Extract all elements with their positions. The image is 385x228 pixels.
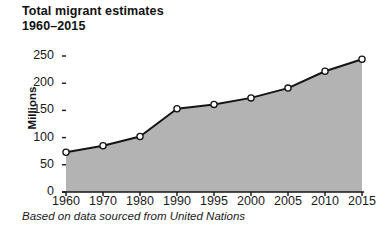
chart-title-line-1: Total migrant estimates: [22, 4, 164, 19]
x-tick-label-1980: 1980: [126, 194, 154, 208]
data-point-1990: [174, 106, 180, 112]
data-point-1995: [211, 101, 217, 107]
x-tick-label-2005: 2005: [274, 194, 302, 208]
x-tick-label-1990: 1990: [163, 194, 191, 208]
area-chart-svg: [0, 44, 385, 196]
x-tick-label-2015: 2015: [348, 194, 376, 208]
chart-title-line-2: 1960–2015: [22, 19, 164, 34]
y-axis-tick-marks: [62, 56, 66, 192]
data-point-2000: [248, 95, 254, 101]
data-point-2005: [285, 85, 291, 91]
data-point-2015: [359, 56, 365, 62]
x-tick-label-2010: 2010: [311, 194, 339, 208]
data-point-1980: [137, 133, 143, 139]
data-point-2010: [322, 68, 328, 74]
x-tick-label-1995: 1995: [200, 194, 228, 208]
chart-title: Total migrant estimates 1960–2015: [22, 4, 164, 34]
x-tick-label-1970: 1970: [89, 194, 117, 208]
x-tick-label-2000: 2000: [237, 194, 265, 208]
x-tick-label-1960: 1960: [52, 194, 80, 208]
plot-area: [0, 44, 385, 196]
chart-caption: Based on data sourced from United Nation…: [22, 210, 245, 222]
data-point-1960: [63, 149, 69, 155]
data-point-1970: [100, 143, 106, 149]
area-fill: [66, 59, 362, 192]
chart-figure: Total migrant estimates 1960–2015 Millio…: [0, 0, 385, 228]
